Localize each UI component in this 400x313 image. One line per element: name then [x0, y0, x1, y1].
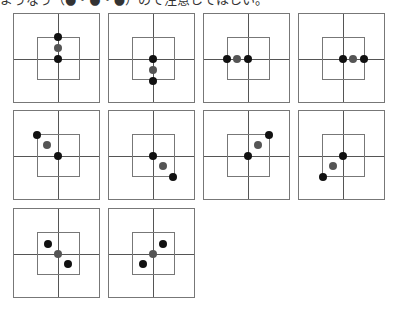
- black-dot: [339, 55, 347, 63]
- black-dot: [169, 173, 177, 181]
- diagram-panel-3: [203, 13, 290, 103]
- black-dot: [244, 152, 252, 160]
- black-dot: [159, 240, 167, 248]
- gray-dot: [149, 250, 157, 258]
- black-dot: [265, 131, 273, 139]
- diagram-panel-6: [108, 110, 195, 200]
- black-dot: [54, 152, 62, 160]
- black-dot: [244, 55, 252, 63]
- gray-dot: [349, 55, 357, 63]
- gray-dot: [233, 55, 241, 63]
- gray-dot: [149, 66, 157, 74]
- black-dot: [339, 152, 347, 160]
- gray-dot: [159, 162, 167, 170]
- gray-dot: [43, 141, 51, 149]
- black-dot: [149, 152, 157, 160]
- gray-dot: [254, 141, 262, 149]
- diagram-panel-10: [108, 208, 195, 298]
- black-dot: [149, 55, 157, 63]
- black-dot: [319, 173, 327, 181]
- gray-dot: [54, 250, 62, 258]
- caption-text: ようなう（●・●・●）ので注意してほしい。: [0, 0, 268, 8]
- black-dot: [149, 77, 157, 85]
- black-dot: [44, 240, 52, 248]
- black-dot: [54, 55, 62, 63]
- diagram-panel-1: [13, 13, 100, 103]
- gray-dot: [329, 162, 337, 170]
- diagram-panel-8: [298, 110, 385, 200]
- black-dot: [360, 55, 368, 63]
- black-dot: [54, 33, 62, 41]
- diagram-panel-5: [13, 110, 100, 200]
- diagram-panel-7: [203, 110, 290, 200]
- black-dot: [33, 131, 41, 139]
- black-dot: [223, 55, 231, 63]
- black-dot: [139, 260, 147, 268]
- diagram-panel-9: [13, 208, 100, 298]
- diagram-panel-4: [298, 13, 385, 103]
- diagram-panel-2: [108, 13, 195, 103]
- gray-dot: [54, 44, 62, 52]
- black-dot: [64, 260, 72, 268]
